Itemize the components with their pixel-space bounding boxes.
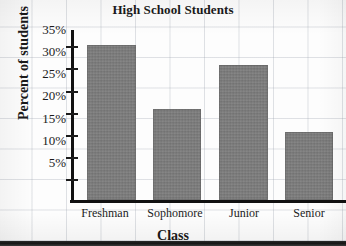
y-tick-label-5: 5% [22, 155, 66, 171]
y-tick-mark-10 [66, 157, 78, 159]
x-tick-label-freshman: Freshman [72, 206, 138, 221]
y-tick-label-15: 15% [22, 111, 66, 127]
y-tick-mark-30 [66, 68, 78, 70]
y-tick-mark-25 [66, 91, 78, 93]
x-tick-label-senior: Senior [278, 206, 340, 221]
y-tick-mark-35 [66, 46, 78, 48]
y-tick-mark-20 [66, 113, 78, 115]
y-axis-line [71, 30, 74, 203]
bar-junior [219, 65, 268, 200]
x-tick-label-junior: Junior [213, 206, 275, 221]
scan-edge-band [0, 241, 346, 246]
y-tick-label-10: 10% [22, 133, 66, 149]
y-tick-mark-15 [66, 135, 78, 137]
bar-chart-figure: High School Students Percent of students… [0, 0, 346, 246]
y-tick-label-25: 25% [22, 66, 66, 82]
x-axis-line [70, 200, 346, 203]
y-tick-label-35: 35% [22, 22, 66, 38]
y-axis-tick-label-group: 35% 30% 25% 20% 15% 10% 5% [20, 30, 66, 203]
plot-area [71, 30, 346, 203]
bar-sophomore [153, 109, 201, 200]
chart-title: High School Students [0, 2, 346, 18]
bar-freshman [87, 45, 136, 200]
y-tick-label-20: 20% [22, 88, 66, 104]
x-tick-label-sophomore: Sophomore [139, 206, 211, 221]
bar-senior [285, 132, 333, 200]
y-tick-label-30: 30% [22, 44, 66, 60]
y-tick-mark-5 [66, 179, 78, 181]
